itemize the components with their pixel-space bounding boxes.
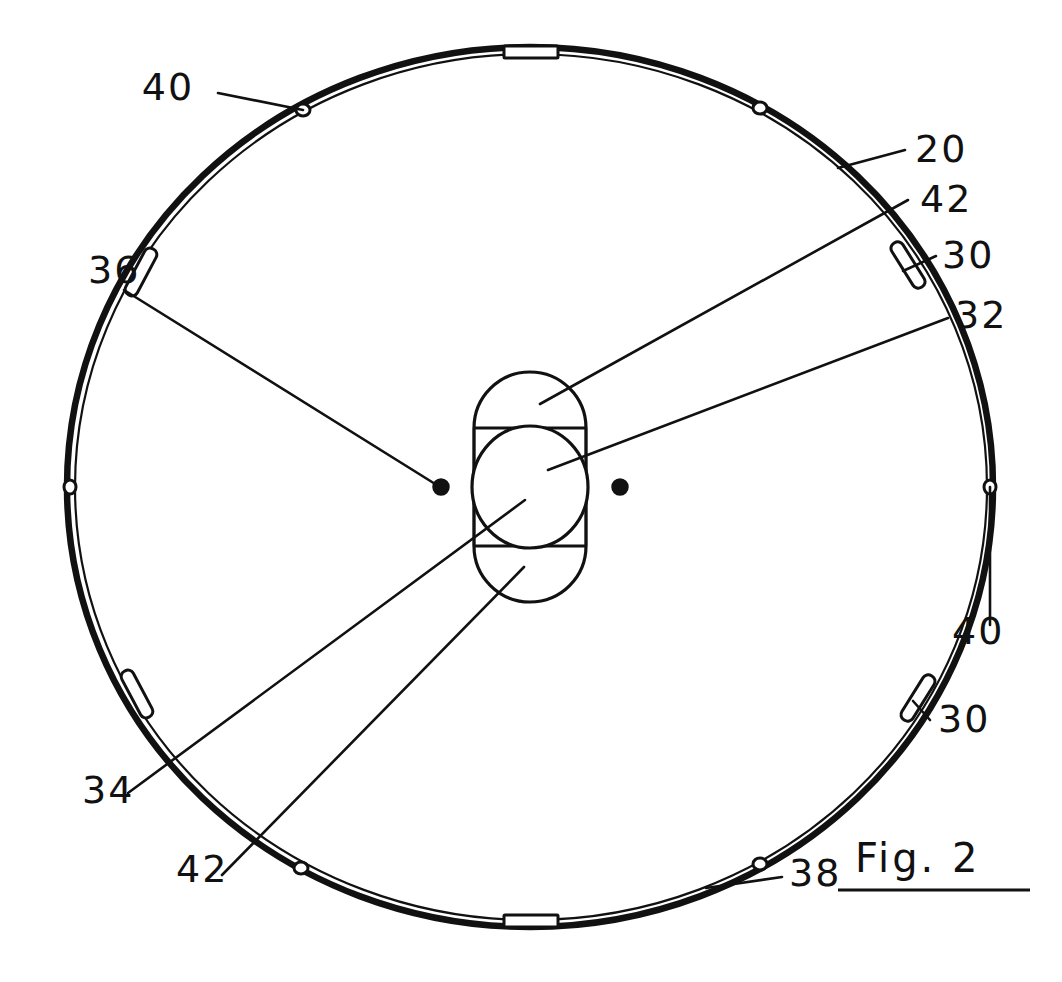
leader-36 bbox=[124, 290, 440, 487]
figure-caption-text: Fig. 2 bbox=[855, 835, 980, 881]
figure-caption-group: Fig. 2 bbox=[838, 835, 1030, 890]
ref-label-30-upper: 30 bbox=[942, 233, 994, 277]
center-hub-group bbox=[472, 372, 588, 602]
hub-center-bore bbox=[472, 426, 588, 548]
ref-label-36: 36 bbox=[88, 248, 140, 292]
rim-tab-bottom bbox=[504, 915, 558, 927]
rim-tab-top bbox=[504, 46, 558, 58]
rim-hole-left bbox=[64, 480, 76, 494]
figure-drawing-canvas: 40 20 42 30 36 32 40 30 34 42 38 Fig. 2 bbox=[0, 0, 1062, 982]
leader-20 bbox=[838, 150, 905, 168]
patent-figure-page: 40 20 42 30 36 32 40 30 34 42 38 Fig. 2 bbox=[0, 0, 1062, 982]
ref-label-40-right: 40 bbox=[952, 609, 1004, 653]
ref-label-34: 34 bbox=[82, 768, 134, 812]
ref-label-38: 38 bbox=[789, 851, 841, 895]
ref-label-40-upper-left: 40 bbox=[142, 65, 194, 109]
ref-label-42-upper: 42 bbox=[920, 177, 972, 221]
rim-hole-lower-left bbox=[294, 862, 308, 874]
ref-label-32: 32 bbox=[955, 293, 1007, 337]
leader-34 bbox=[128, 500, 525, 793]
ref-label-20: 20 bbox=[915, 127, 967, 171]
rim-hole-upper-right bbox=[753, 102, 767, 114]
ref-label-30-lower: 30 bbox=[938, 697, 990, 741]
rim-hole-lower-right bbox=[753, 858, 767, 870]
ref-label-42-lower: 42 bbox=[176, 847, 228, 891]
leader-40-upper-left bbox=[218, 93, 303, 110]
leader-32 bbox=[548, 318, 948, 470]
pin-dot-right bbox=[612, 479, 628, 495]
leader-42-upper bbox=[540, 200, 908, 404]
